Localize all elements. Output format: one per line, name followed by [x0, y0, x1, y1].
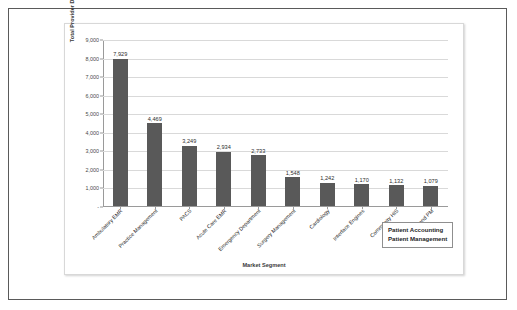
annotation-line-2: Patient Management [388, 235, 447, 244]
x-axis-category-label-text: Surgery Management [255, 207, 297, 249]
x-axis-category-label-text: Acute Care EMR [194, 207, 228, 241]
bar-slot: 4,469 [138, 40, 173, 206]
bar-value-label: 3,249 [182, 138, 196, 144]
annotation-line-1: Patient Accounting [388, 226, 447, 235]
y-axis-tick-label: 9,000 [86, 37, 100, 43]
x-axis-category-label-text: Cardiology [308, 207, 331, 230]
bar[interactable]: 7,929 [113, 59, 128, 206]
x-axis-category-label-text: Practice Management [117, 207, 159, 249]
bar-value-label: 2,934 [217, 144, 231, 150]
bar-value-label: 2,733 [251, 148, 265, 154]
x-axis-category-label-text: PACS [178, 207, 193, 222]
y-axis-tick-label: 7,000 [86, 74, 100, 80]
y-axis-title-text: Total Provider Downloads [69, 0, 75, 68]
y-axis-title: Total Provider Downloads [75, 0, 81, 68]
y-axis-tick-label: 1,000 [86, 185, 100, 191]
bar-slot: 2,934 [207, 40, 242, 206]
y-axis-tick-label: 3,000 [86, 148, 100, 154]
x-axis-title-text: Market Segment [242, 262, 285, 268]
bar-chart: Total Provider Downloads -1,0002,0003,00… [64, 23, 464, 275]
y-axis-tick-label: - [97, 204, 99, 210]
x-axis-category-label-text: Ambulatory EMR [91, 207, 125, 241]
bar-value-label: 7,929 [113, 51, 127, 57]
y-axis-tick-label: 5,000 [86, 111, 100, 117]
bar[interactable]: 2,934 [216, 152, 231, 206]
x-axis-category-label-text: Interface Engines [331, 207, 366, 242]
bar-slot: 1,079 [414, 40, 449, 206]
y-axis-tick-label: 2,000 [86, 167, 100, 173]
bar-value-label: 4,469 [148, 116, 162, 122]
plot-wrapper: Total Provider Downloads -1,0002,0003,00… [65, 24, 463, 274]
annotation-callout: Patient Accounting Patient Management [382, 222, 453, 248]
x-axis-title: Market Segment [65, 262, 463, 268]
bar-value-label: 1,170 [355, 177, 369, 183]
y-axis-tick-label: 4,000 [86, 130, 100, 136]
document-page-frame: Total Provider Downloads -1,0002,0003,00… [8, 8, 507, 300]
plot-area: -1,0002,0003,0004,0005,0006,0007,0008,00… [103, 40, 448, 207]
y-axis-tick-label: 6,000 [86, 93, 100, 99]
bar-slot: 7,929 [103, 40, 138, 206]
bar[interactable]: 4,469 [147, 123, 162, 206]
bar-slot: 2,733 [241, 40, 276, 206]
bar-slot: 1,548 [276, 40, 311, 206]
y-axis-tick-label: 8,000 [86, 56, 100, 62]
bar-slot: 1,170 [345, 40, 380, 206]
